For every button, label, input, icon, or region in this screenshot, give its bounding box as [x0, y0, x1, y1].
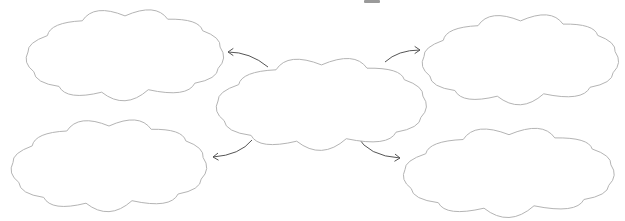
- cloud-shape: [403, 128, 614, 217]
- arrow-to-bottom-left: [213, 140, 252, 160]
- cloud-node-top-left: [26, 10, 224, 101]
- bubble-map-diagram: [0, 0, 625, 221]
- cloud-shape: [26, 10, 224, 101]
- arrow-to-top-right: [385, 47, 420, 62]
- cloud-node-bottom-left: [11, 120, 207, 212]
- cloud-shape: [216, 58, 426, 150]
- cloud-shape: [11, 120, 207, 212]
- cloud-shape: [422, 15, 618, 105]
- cloud-nodes: [11, 10, 619, 218]
- arrow-to-top-left: [228, 49, 268, 67]
- arrow-line: [228, 52, 268, 67]
- cloud-node-center: [216, 58, 426, 150]
- cloud-node-bottom-right: [403, 128, 614, 217]
- arrow-line: [213, 140, 252, 157]
- arrow-line: [385, 50, 420, 62]
- cloud-node-top-right: [422, 15, 618, 105]
